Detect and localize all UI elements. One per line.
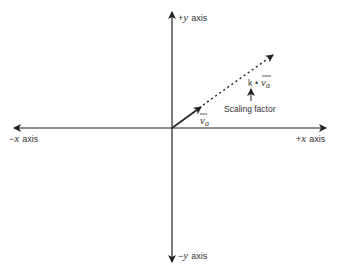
scaled-vector-label: k • va	[248, 76, 271, 90]
neg-y-axis-label: −yaxis	[178, 249, 208, 261]
svg-text:k: k	[248, 78, 253, 88]
pos-x-axis-label: +xaxis	[296, 132, 326, 144]
neg-x-axis-label: −xaxis	[9, 132, 39, 144]
svg-text:va: va	[261, 76, 270, 90]
pos-y-axis-label: +yaxis	[178, 11, 208, 23]
svg-text:va: va	[200, 114, 209, 128]
svg-text:•: •	[255, 78, 258, 88]
vector-va-label: va	[200, 114, 209, 128]
scaling-factor-label: Scaling factor	[224, 104, 276, 114]
vector-va-arrow	[172, 107, 201, 128]
vector-diagram: +yaxis −yaxis −xaxis +xaxis va k • va Sc…	[0, 0, 338, 274]
